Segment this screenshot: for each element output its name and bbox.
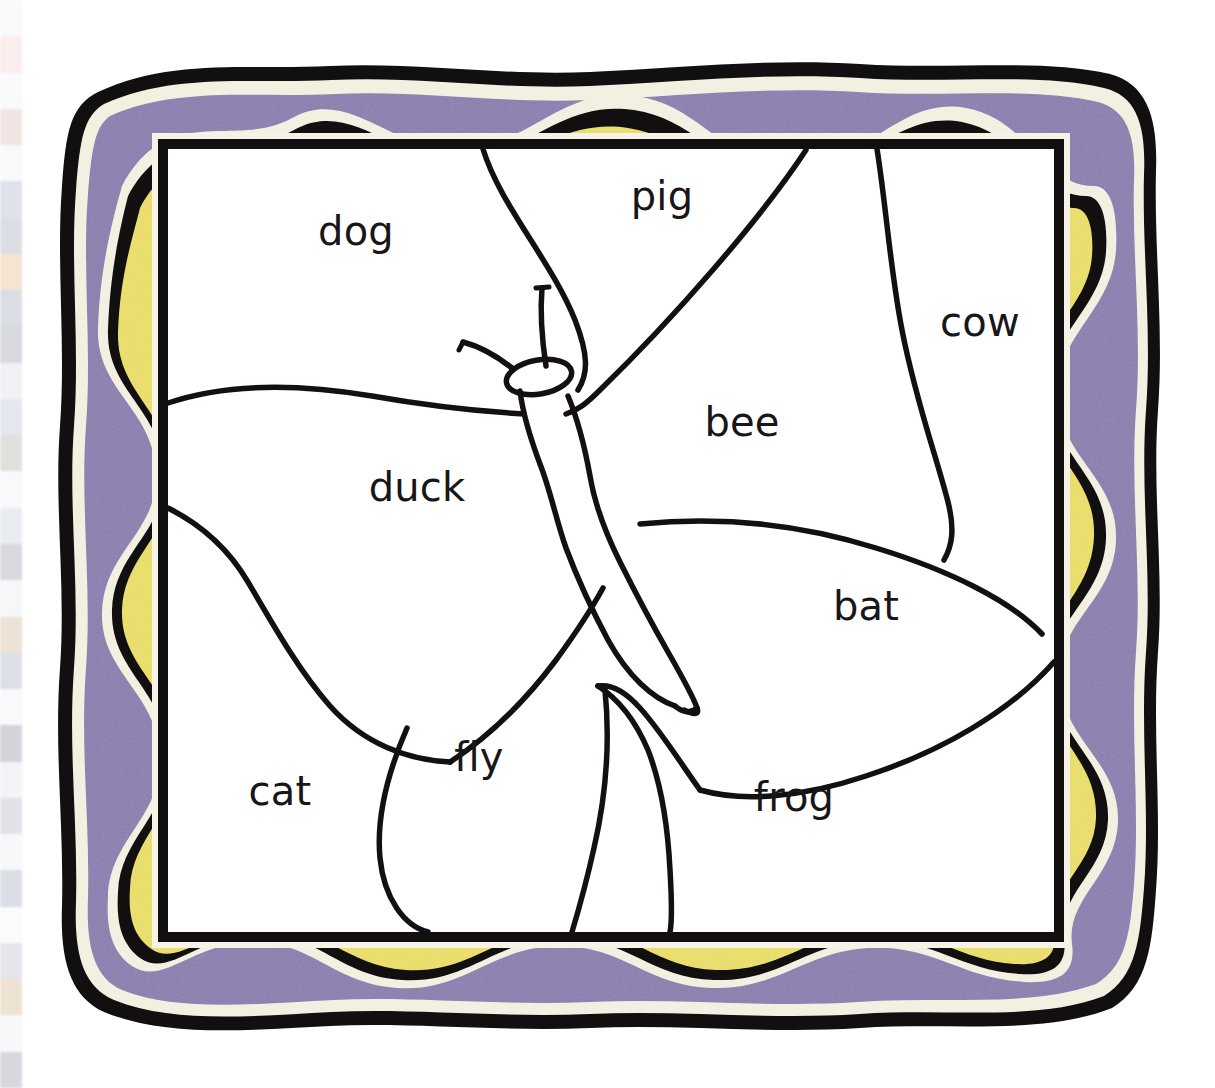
region-label-bat: bat — [833, 583, 899, 629]
region-label-pig: pig — [631, 173, 694, 219]
region-label-cat: cat — [249, 768, 312, 814]
framed-illustration — [0, 0, 1215, 1088]
right-antenna-tip — [536, 287, 549, 288]
region-label-bee: bee — [704, 399, 779, 445]
region-label-frog: frog — [754, 774, 834, 820]
page-canvas: dog pig cow bee duck bat fly cat frog — [0, 0, 1215, 1088]
region-label-dog: dog — [318, 208, 394, 254]
region-label-cow: cow — [940, 299, 1020, 345]
region-label-duck: duck — [369, 464, 466, 510]
region-label-fly: fly — [454, 734, 503, 780]
